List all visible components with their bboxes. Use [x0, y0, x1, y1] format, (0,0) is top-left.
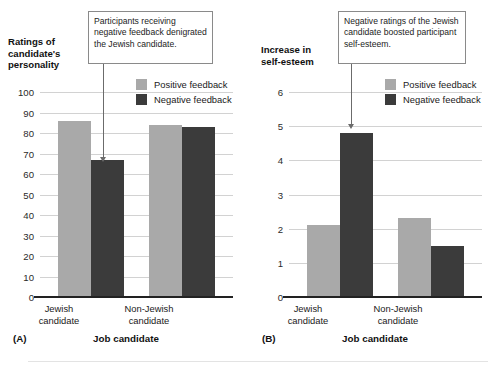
arrow-shaft — [351, 64, 352, 126]
x-axis-title-b: Job candidate — [295, 333, 455, 344]
panel-letter-b: (B) — [262, 333, 276, 344]
y-axis-title: Ratings of candidate's personality — [8, 36, 86, 71]
bar-nonjewish-negative — [182, 127, 215, 297]
legend-label-positive: Positive feedback — [403, 79, 476, 90]
bar-nonjewish-negative — [431, 246, 464, 297]
y-tick-10: 10 — [23, 271, 34, 282]
y-tick-20: 20 — [23, 251, 34, 262]
annotation-callout-b: Negative ratings of the Jewish candidate… — [338, 11, 466, 64]
y-tick-50: 50 — [23, 189, 34, 200]
x-group-label-jewish: Jewish candidate — [11, 303, 107, 326]
x-axis-title-a: Job candidate — [46, 333, 206, 344]
panel-a: Ratings of candidate's personality Parti… — [0, 0, 251, 360]
y-tick-3: 3 — [278, 189, 283, 200]
figure-bottom-divider — [28, 361, 488, 362]
legend-swatch-negative — [385, 94, 396, 105]
legend-item-negative: Negative feedback — [385, 92, 481, 107]
bar-nonjewish-positive — [398, 218, 431, 297]
legend-label-negative: Negative feedback — [403, 94, 481, 105]
x-group-label-nonjewish: Non-Jewish candidate — [348, 303, 448, 326]
plot-area-a: 0 10 20 30 40 50 60 70 80 90 100 — [40, 92, 233, 297]
bar-jewish-positive — [58, 121, 91, 297]
legend-a: Positive feedback Negative feedback — [136, 77, 232, 107]
y-tick-1: 1 — [278, 257, 283, 268]
arrow-head-icon — [348, 124, 354, 129]
legend-item-positive: Positive feedback — [385, 77, 481, 92]
legend-item-negative: Negative feedback — [136, 92, 232, 107]
y-tick-4: 4 — [278, 155, 283, 166]
x-axis-line — [283, 296, 482, 298]
panel-letter-a: (A) — [13, 333, 27, 344]
bar-jewish-negative — [91, 160, 124, 297]
bar-nonjewish-positive — [149, 125, 182, 297]
y-axis-title: Increase in self-esteem — [261, 44, 341, 67]
legend-b: Positive feedback Negative feedback — [385, 77, 481, 107]
arrow-head-icon — [100, 157, 106, 162]
figure-container: Ratings of candidate's personality Parti… — [0, 0, 502, 375]
x-group-label-jewish: Jewish candidate — [260, 303, 356, 326]
y-tick-6: 6 — [278, 87, 283, 98]
plot-area-b: 0 1 2 3 4 5 6 — [289, 92, 482, 297]
arrow-shaft — [103, 64, 104, 159]
annotation-callout-a: Participants receiving negative feedback… — [88, 11, 213, 64]
bar-jewish-negative — [340, 133, 373, 297]
legend-swatch-positive — [136, 79, 147, 90]
legend-label-negative: Negative feedback — [154, 94, 232, 105]
y-tick-80: 80 — [23, 128, 34, 139]
legend-item-positive: Positive feedback — [136, 77, 232, 92]
y-tick-90: 90 — [23, 107, 34, 118]
x-axis-line — [34, 296, 233, 298]
x-group-label-nonjewish: Non-Jewish candidate — [99, 303, 199, 326]
y-tick-60: 60 — [23, 169, 34, 180]
y-tick-30: 30 — [23, 230, 34, 241]
bar-jewish-positive — [307, 225, 340, 297]
y-tick-5: 5 — [278, 121, 283, 132]
legend-label-positive: Positive feedback — [154, 79, 227, 90]
y-tick-40: 40 — [23, 210, 34, 221]
legend-swatch-positive — [385, 79, 396, 90]
y-tick-70: 70 — [23, 148, 34, 159]
legend-swatch-negative — [136, 94, 147, 105]
y-tick-2: 2 — [278, 223, 283, 234]
panel-b: Increase in self-esteem Negative ratings… — [251, 0, 502, 360]
y-tick-100: 100 — [18, 87, 34, 98]
